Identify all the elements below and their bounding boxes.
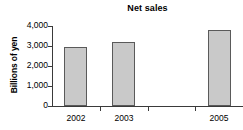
x-tick-mark bbox=[148, 106, 149, 111]
x-axis-label: 2003 bbox=[104, 113, 144, 123]
y-tick-label: 0 bbox=[43, 100, 48, 110]
y-tick-mark bbox=[48, 106, 53, 107]
x-axis-label: 2002 bbox=[56, 113, 96, 123]
y-tick-label: 2,000 bbox=[27, 60, 48, 70]
bar bbox=[208, 30, 231, 106]
plot-area: 01,0002,0003,0004,000 200220032005 bbox=[52, 26, 243, 106]
bar bbox=[112, 42, 135, 106]
x-tick-mark bbox=[195, 106, 196, 111]
y-tick-label: 1,000 bbox=[27, 80, 48, 90]
y-tick-label: 4,000 bbox=[27, 20, 48, 30]
y-tick-mark bbox=[48, 66, 53, 67]
y-tick-label: 3,000 bbox=[27, 40, 48, 50]
x-tick-mark bbox=[100, 106, 101, 111]
y-tick: 2,000 bbox=[52, 66, 53, 67]
y-tick: 4,000 bbox=[52, 26, 53, 27]
y-tick-mark bbox=[48, 86, 53, 87]
y-tick: 0 bbox=[52, 106, 53, 107]
y-tick-mark bbox=[48, 46, 53, 47]
x-axis-label: 2005 bbox=[199, 113, 239, 123]
y-tick-mark bbox=[48, 26, 53, 27]
net-sales-bar-chart: Net sales Billions of yen 01,0002,0003,0… bbox=[0, 0, 243, 130]
chart-title: Net sales bbox=[52, 3, 243, 14]
bar bbox=[64, 47, 87, 106]
y-axis-title: Billions of yen bbox=[9, 22, 19, 108]
y-tick: 1,000 bbox=[52, 86, 53, 87]
y-tick: 3,000 bbox=[52, 46, 53, 47]
